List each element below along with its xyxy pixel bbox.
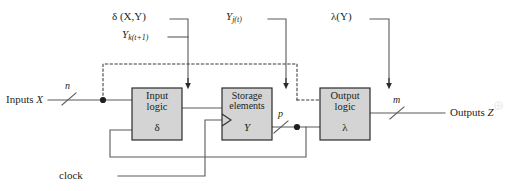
diagram-canvas: δ (X,Y) Yk(t+1) Yj(t) λ(Y) Input logic δ… [0,0,512,191]
lambda-function-label: λ(Y) [331,11,352,22]
inputs-text: Inputs [6,93,36,105]
input-logic-symbol: δ [132,122,182,133]
present-state-subscript: j(t) [232,15,242,24]
input-logic-block-label: Input logic [132,91,182,112]
state-junction-dot [294,124,300,130]
input-bus-width-label: n [65,81,70,91]
clock-label: clock [59,170,83,181]
output-bus-width-label: m [393,95,400,105]
outputs-text: Outputs [450,106,488,118]
inputs-label: Inputs X [6,94,43,105]
scan-artifact-mark: ⨁ [494,100,503,110]
present-state-leader-line [268,19,286,84]
present-state-label: Yj(t) [226,11,242,24]
lambda-leader-line [370,19,389,84]
output-logic-block-label: Output logic [320,91,370,112]
output-logic-line2: logic [320,102,370,113]
storage-elements-block-label: Storage elements [221,91,273,111]
outputs-variable: Z [488,106,494,118]
inputs-variable: X [36,93,43,105]
next-state-label: Yk(t+1) [122,29,148,42]
next-state-subscript: k(t+1) [128,33,148,42]
storage-elements-symbol: Y [222,122,272,133]
outputs-label: Outputs Z [450,107,494,118]
delta-function-label: δ (X,Y) [112,11,146,22]
storage-line2: elements [221,101,273,111]
state-bus-width-label: p [278,109,283,119]
input-junction-dot [100,97,106,103]
output-logic-symbol: λ [320,122,370,133]
input-logic-line2: logic [132,102,182,113]
delta-leader-line [170,19,188,84]
input-bus-slash [62,93,76,105]
